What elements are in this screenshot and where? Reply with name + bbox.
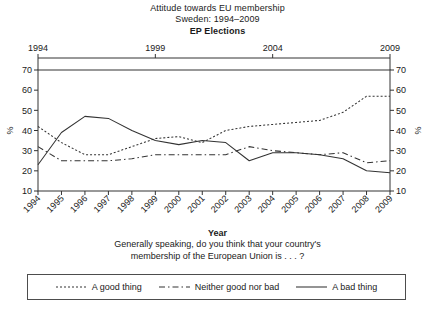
x-axis-tick-label: 2009	[373, 193, 394, 214]
x-axis-tick-label: 2007	[326, 193, 347, 214]
y-axis-tick-label-left: 40	[22, 126, 32, 136]
top-axis-tick-label: 2009	[380, 43, 400, 53]
x-axis-title: Year	[0, 228, 435, 239]
y-axis-tick-label-right: 10	[396, 186, 406, 196]
legend-entry-1[interactable]: Neither good nor bad	[159, 282, 280, 292]
chart-figure: Attitude towards EU membership Sweden: 1…	[0, 0, 435, 310]
x-axis-tick-label: 2003	[232, 193, 253, 214]
plot-area: 1994199920042009101020203030404050506060…	[0, 0, 435, 310]
survey-question-line-1: Generally speaking, do you think that yo…	[0, 239, 435, 251]
y-axis-label-right: %	[413, 126, 423, 134]
survey-question-line-2: membership of the European Union is . . …	[0, 251, 435, 263]
top-axis-tick-label: 2004	[263, 43, 283, 53]
x-axis-tick-label: 2004	[256, 193, 277, 214]
plot-frame	[38, 70, 390, 191]
y-axis-tick-label-right: 30	[396, 146, 406, 156]
dashed-line-icon	[159, 283, 190, 291]
top-axis-tick-label: 1999	[145, 43, 165, 53]
x-axis-tick-label: 2008	[350, 193, 371, 214]
y-axis-tick-label-left: 70	[22, 65, 32, 75]
top-axis-tick-label: 1994	[28, 43, 48, 53]
legend-entry-2[interactable]: A bad thing	[296, 282, 377, 292]
x-axis-tick-label: 1997	[92, 193, 113, 214]
y-axis-tick-label-right: 20	[396, 166, 406, 176]
x-axis-tick-label: 1999	[139, 193, 160, 214]
series-line-2	[38, 116, 390, 172]
y-axis-tick-label-right: 50	[396, 106, 406, 116]
x-axis-tick-label: 1998	[115, 193, 136, 214]
y-axis-label-left: %	[5, 126, 15, 134]
legend-entries: A good thingNeither good nor badA bad th…	[28, 275, 405, 299]
legend-label-2: A bad thing	[332, 282, 377, 292]
x-axis-tick-label: 1995	[45, 193, 66, 214]
x-axis-tick-label: 2005	[279, 193, 300, 214]
y-axis-tick-label-left: 50	[22, 106, 32, 116]
y-axis-tick-label-right: 40	[396, 126, 406, 136]
x-axis-tick-label: 1996	[68, 193, 89, 214]
x-axis-tick-label: 2001	[185, 193, 206, 214]
x-axis-tick-label: 1994	[21, 193, 42, 214]
caption-block: Year Generally speaking, do you think th…	[0, 228, 435, 262]
y-axis-tick-label-left: 10	[22, 186, 32, 196]
series-line-0	[38, 96, 390, 154]
legend-entry-0[interactable]: A good thing	[56, 282, 142, 292]
chart-legend: A good thingNeither good nor badA bad th…	[27, 274, 406, 300]
y-axis-tick-label-left: 30	[22, 146, 32, 156]
legend-label-0: A good thing	[92, 282, 142, 292]
y-axis-tick-label-right: 70	[396, 65, 406, 75]
dotted-line-icon	[56, 283, 87, 291]
y-axis-tick-label-left: 20	[22, 166, 32, 176]
x-axis-tick-label: 2002	[209, 193, 230, 214]
x-axis-tick-label: 2000	[162, 193, 183, 214]
y-axis-tick-label-left: 60	[22, 85, 32, 95]
solid-line-icon	[296, 283, 327, 291]
y-axis-tick-label-right: 60	[396, 85, 406, 95]
legend-label-1: Neither good nor bad	[195, 282, 280, 292]
x-axis-tick-label: 2006	[303, 193, 324, 214]
